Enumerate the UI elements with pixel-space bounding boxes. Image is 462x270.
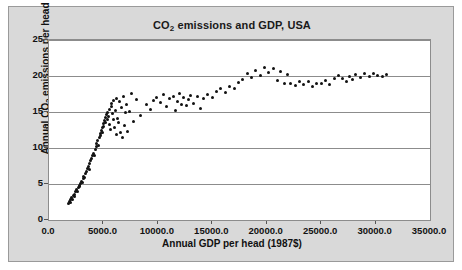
scatter-point (116, 117, 119, 120)
scatter-point (76, 190, 79, 193)
scatter-point (108, 108, 111, 111)
scatter-point (178, 92, 181, 95)
scatter-point (187, 98, 190, 101)
scatter-point (185, 104, 188, 107)
scatter-point (155, 96, 158, 99)
chart-title-pre: CO (153, 19, 170, 31)
scatter-point (237, 81, 240, 84)
scatter-point (172, 95, 175, 98)
scatter-point (104, 121, 107, 124)
scatter-point (219, 87, 222, 90)
scatter-point (114, 109, 117, 112)
scatter-point (165, 105, 168, 108)
scatter-point (90, 157, 93, 160)
scatter-point (250, 76, 253, 79)
scatter-point (368, 75, 371, 78)
scatter-point (283, 82, 286, 85)
scatter-point (71, 198, 74, 201)
scatter-point (162, 93, 165, 96)
scatter-point (372, 72, 375, 75)
scatter-point (180, 103, 183, 106)
scatter-point (121, 136, 124, 139)
chart-title: CO2 emissions and GDP, USA (9, 19, 455, 31)
scatter-point (115, 97, 118, 100)
scatter-point (359, 76, 362, 79)
scatter-point (111, 112, 114, 115)
scatter-point (341, 77, 344, 80)
scatter-point (117, 121, 120, 124)
scatter-point (88, 162, 91, 165)
scatter-point (294, 84, 297, 87)
scatter-point (130, 92, 133, 95)
scatter-point (351, 78, 354, 81)
scatter-point (120, 106, 123, 109)
scatter-point (69, 201, 72, 204)
scatter-point (215, 90, 218, 93)
scatter-point (149, 108, 152, 111)
chart-title-post: emissions and GDP, USA (174, 19, 311, 31)
scatter-point (241, 78, 244, 81)
scatter-point (289, 82, 292, 85)
scatter-point (211, 96, 214, 99)
scatter-point (182, 96, 185, 99)
scatter-point (112, 118, 115, 121)
plot-area (48, 39, 431, 221)
scatter-point (101, 131, 104, 134)
gridline (49, 76, 430, 77)
scatter-point (96, 139, 99, 142)
y-tick-label: 15 (21, 106, 43, 116)
scatter-point (189, 94, 192, 97)
scatter-point (108, 123, 111, 126)
scatter-point (263, 66, 266, 69)
scatter-point (81, 181, 84, 184)
chart-title-subscript: 2 (170, 24, 175, 33)
gridline (49, 40, 430, 41)
scatter-point (254, 69, 257, 72)
scatter-point (363, 72, 366, 75)
scatter-point (94, 148, 97, 151)
scatter-point (320, 82, 323, 85)
scatter-point (106, 111, 109, 114)
scatter-point (302, 83, 305, 86)
scatter-point (286, 73, 289, 76)
x-tick-label: 35000.0 (396, 226, 462, 236)
scatter-point (110, 105, 113, 108)
scatter-point (124, 111, 127, 114)
scatter-point (246, 72, 249, 75)
scatter-point (311, 85, 314, 88)
chart-container: CO2 emissions and GDP, USA Annual CO2 em… (8, 6, 454, 262)
scatter-point (73, 195, 76, 198)
scatter-point (97, 144, 100, 147)
scatter-point (233, 87, 236, 90)
y-tick-label: 0 (21, 214, 43, 224)
scatter-point (259, 74, 262, 77)
scatter-point (106, 118, 109, 121)
scatter-point (272, 67, 275, 70)
scatter-point (152, 99, 155, 102)
scatter-point (159, 101, 162, 104)
scatter-point (276, 79, 279, 82)
scatter-point (135, 98, 138, 101)
scatter-point (307, 80, 310, 83)
scatter-point (168, 97, 171, 100)
scatter-point (109, 128, 112, 131)
scatter-point (279, 70, 282, 73)
scatter-point (119, 131, 122, 134)
scatter-point (324, 79, 327, 82)
scatter-point (224, 91, 227, 94)
scatter-point (113, 126, 116, 129)
scatter-point (102, 125, 105, 128)
scatter-point (174, 109, 177, 112)
scatter-point (228, 85, 231, 88)
scatter-point (381, 75, 384, 78)
scatter-point (123, 124, 126, 127)
scatter-point (88, 168, 91, 171)
scatter-point (202, 97, 205, 100)
scatter-point (110, 102, 113, 105)
scatter-point (337, 74, 340, 77)
scatter-point (206, 93, 209, 96)
scatter-point (196, 95, 199, 98)
y-tick-label: 20 (21, 70, 43, 80)
scatter-point (298, 80, 301, 83)
scatter-point (107, 115, 110, 118)
